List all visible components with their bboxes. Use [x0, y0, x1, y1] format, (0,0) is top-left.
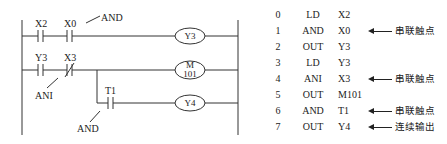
- operand: X2: [338, 8, 350, 22]
- step-number: 2: [272, 40, 284, 54]
- annotation-and-1: AND: [101, 12, 123, 23]
- operand: Y4: [338, 120, 350, 134]
- note-text: 串联触点: [395, 104, 435, 118]
- ladder-diagram: X2 X0 Y3 X3 T1 Y3 M 101 Y4 AND ANI AND: [0, 0, 260, 144]
- step-number: 3: [272, 56, 284, 70]
- note-text: 连续输出: [395, 120, 435, 134]
- step-number: 1: [272, 24, 284, 38]
- operand: X3: [338, 72, 350, 86]
- operand: T1: [338, 104, 349, 118]
- coil-y4-label: Y4: [185, 98, 196, 108]
- contact-x3-label: X3: [64, 52, 76, 63]
- step-number: 4: [272, 72, 284, 86]
- opcode: OUT: [293, 120, 333, 134]
- left-arrow-icon: [368, 122, 392, 132]
- annotation-ani: ANI: [35, 90, 53, 101]
- left-arrow-icon: [368, 26, 392, 36]
- contact-x0-label: X0: [64, 18, 76, 29]
- left-arrow-icon: [368, 106, 392, 116]
- annotation-note: 串联触点: [368, 104, 435, 118]
- operand: M101: [338, 88, 362, 102]
- annotation-note: 连续输出: [368, 120, 435, 134]
- opcode: ANI: [293, 72, 333, 86]
- contact-y3-label: Y3: [35, 52, 47, 63]
- opcode: OUT: [293, 88, 333, 102]
- opcode: LD: [293, 56, 333, 70]
- step-number: 6: [272, 104, 284, 118]
- operand: Y3: [338, 40, 350, 54]
- annotation-and-2: AND: [77, 123, 99, 134]
- opcode: LD: [293, 8, 333, 22]
- annotation-note: 串联触点: [368, 24, 435, 38]
- note-text: 串联触点: [395, 72, 435, 86]
- step-number: 7: [272, 120, 284, 134]
- opcode: OUT: [293, 40, 333, 54]
- operand: X0: [338, 24, 350, 38]
- annotation-note: 串联触点: [368, 72, 435, 86]
- contact-x2-label: X2: [35, 18, 47, 29]
- annotation-labels: AND ANI AND: [35, 12, 123, 134]
- contact-t1-label: T1: [105, 85, 116, 96]
- instruction-list: 0 LD X2 1 AND X0 串联触点 2 OUT Y3 3 LD Y3 4…: [260, 0, 447, 144]
- contact-labels: X2 X0 Y3 X3 T1: [35, 18, 116, 96]
- opcode: AND: [293, 104, 333, 118]
- coil-y3-label: Y3: [185, 31, 196, 41]
- note-text: 串联触点: [395, 24, 435, 38]
- coil-m101-label-2: 101: [183, 69, 197, 79]
- step-number: 0: [272, 8, 284, 22]
- operand: Y3: [338, 56, 350, 70]
- coil-labels: Y3 M 101 Y4: [183, 31, 197, 108]
- left-arrow-icon: [368, 74, 392, 84]
- opcode: AND: [293, 24, 333, 38]
- step-number: 5: [272, 88, 284, 102]
